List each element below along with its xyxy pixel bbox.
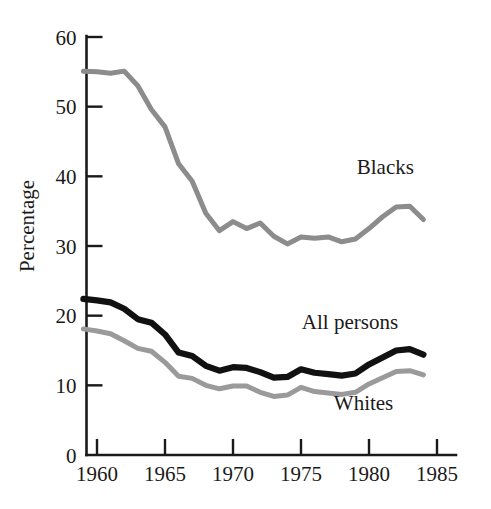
- series-label-blacks: Blacks: [357, 155, 414, 179]
- y-axis-title: Percentage: [15, 180, 39, 272]
- x-tick-label-1980: 1980: [348, 462, 390, 486]
- y-tick-label-50: 50: [56, 95, 77, 119]
- x-tick-label-1960: 1960: [76, 462, 118, 486]
- y-tick-label-30: 30: [56, 235, 77, 259]
- y-tick-label-10: 10: [56, 374, 77, 398]
- y-axis-title-text: Percentage: [15, 180, 39, 272]
- x-tick-label-1975: 1975: [280, 462, 322, 486]
- y-tick-label-40: 40: [56, 165, 77, 189]
- series-label-all-persons: All persons: [302, 310, 398, 334]
- y-tick-label-20: 20: [56, 304, 77, 328]
- x-tick-label-1970: 1970: [212, 462, 254, 486]
- x-tick-label-1985: 1985: [416, 462, 458, 486]
- chart-series-lines: [83, 71, 423, 396]
- series-label-whites: Whites: [334, 391, 393, 415]
- y-tick-label-0: 0: [66, 444, 77, 468]
- x-tick-label-1965: 1965: [144, 462, 186, 486]
- chart-axes: [87, 36, 457, 455]
- percentage-line-chart: 0102030405060 196019651970197519801985 P…: [0, 0, 491, 509]
- y-axis-tick-labels: 0102030405060: [56, 26, 77, 468]
- x-axis-tick-labels: 196019651970197519801985: [76, 462, 458, 486]
- chart-canvas: 0102030405060 196019651970197519801985 P…: [0, 0, 491, 509]
- x-axis-ticks: [97, 439, 437, 455]
- y-tick-label-60: 60: [56, 26, 77, 50]
